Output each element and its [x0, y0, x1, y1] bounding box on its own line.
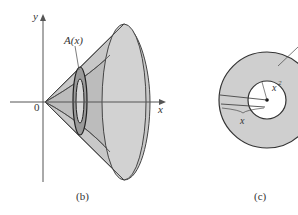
- outer-radius-label: x: [239, 115, 245, 126]
- caption-c: (c): [254, 190, 267, 203]
- figure-c: x x 2 (c): [219, 47, 298, 203]
- caption-b: (b): [76, 190, 89, 203]
- figure-b: y A(x) x 0 (b): [10, 10, 166, 203]
- y-axis-arrow-icon: [40, 14, 46, 21]
- x-axis-label: x: [157, 103, 163, 115]
- inner-radius-label: x: [271, 82, 277, 93]
- inner-radius-exponent: 2: [278, 79, 282, 87]
- diagram-canvas: y A(x) x 0 (b) x: [0, 0, 298, 215]
- cross-section-hole: [76, 79, 84, 123]
- origin-label: 0: [34, 101, 40, 113]
- y-axis-label: y: [32, 10, 38, 22]
- cross-section-leader: [75, 46, 79, 70]
- cross-section-label: A(x): [63, 34, 83, 47]
